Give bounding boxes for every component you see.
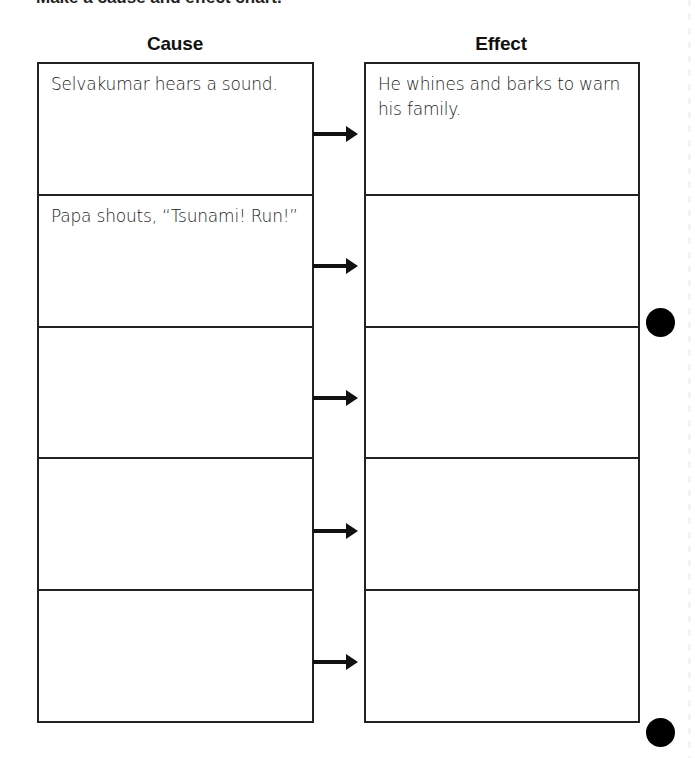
- arrow-shaft: [313, 396, 347, 400]
- arrow-head: [346, 654, 358, 670]
- arrow-head: [346, 523, 358, 539]
- worksheet-instructions-cut-off: Make a cause and effect chart.: [36, 0, 282, 8]
- right-arrow-icon: [313, 523, 359, 539]
- punch-hole-icon: [646, 308, 675, 337]
- arrow-shaft: [313, 132, 347, 136]
- cause-column-header: Cause: [38, 33, 312, 55]
- cause-cell-5[interactable]: [39, 591, 312, 721]
- arrow-head: [346, 126, 358, 142]
- cause-cell-2[interactable]: Papa shouts, “Tsunami! Run!”: [39, 196, 312, 328]
- page-edge-bleed: [688, 0, 691, 758]
- arrow-head: [346, 390, 358, 406]
- right-arrow-icon: [313, 390, 359, 406]
- effect-cell-4[interactable]: [366, 459, 638, 591]
- arrow-shaft: [313, 660, 347, 664]
- cause-cell-1[interactable]: Selvakumar hears a sound.: [39, 64, 312, 196]
- right-arrow-icon: [313, 654, 359, 670]
- cause-column: Selvakumar hears a sound. Papa shouts, “…: [37, 62, 314, 723]
- punch-hole-icon: [646, 718, 675, 747]
- effect-cell-5[interactable]: [366, 591, 638, 721]
- arrow-shaft: [313, 529, 347, 533]
- effect-cell-3[interactable]: [366, 328, 638, 460]
- cause-cell-3[interactable]: [39, 328, 312, 460]
- arrow-shaft: [313, 264, 347, 268]
- effect-column: He whines and barks to warn his family.: [364, 62, 640, 723]
- effect-cell-1[interactable]: He whines and barks to warn his family.: [366, 64, 638, 196]
- arrow-head: [346, 258, 358, 274]
- right-arrow-icon: [313, 258, 359, 274]
- cause-cell-4[interactable]: [39, 459, 312, 591]
- right-arrow-icon: [313, 126, 359, 142]
- effect-column-header: Effect: [364, 33, 638, 55]
- effect-cell-2[interactable]: [366, 196, 638, 328]
